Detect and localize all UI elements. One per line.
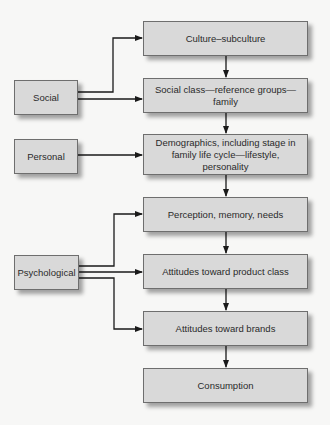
consumption-label: Consumption: [198, 380, 254, 392]
social-class-label: Social class—reference groups—family: [148, 84, 303, 108]
psychological-box: Psychological: [14, 255, 79, 290]
personal-label: Personal: [27, 151, 65, 163]
demographics-label: Demographics, including stage in family …: [148, 137, 303, 173]
perception-box: Perception, memory, needs: [143, 197, 308, 232]
social-label: Social: [33, 92, 59, 104]
personal-box: Personal: [14, 139, 78, 174]
perception-label: Perception, memory, needs: [168, 209, 283, 221]
attitudes-product-box: Attitudes toward product class: [143, 254, 308, 289]
culture-box: Culture–subculture: [143, 21, 308, 56]
social-class-box: Social class—reference groups—family: [143, 78, 308, 113]
attitudes-brands-box: Attitudes toward brands: [143, 311, 308, 346]
attitudes-brands-label: Attitudes toward brands: [176, 323, 276, 335]
culture-label: Culture–subculture: [186, 33, 266, 45]
demographics-box: Demographics, including stage in family …: [143, 134, 308, 175]
attitudes-product-label: Attitudes toward product class: [162, 266, 289, 278]
consumption-box: Consumption: [143, 368, 308, 403]
social-box: Social: [14, 80, 78, 115]
psychological-label: Psychological: [17, 267, 75, 279]
